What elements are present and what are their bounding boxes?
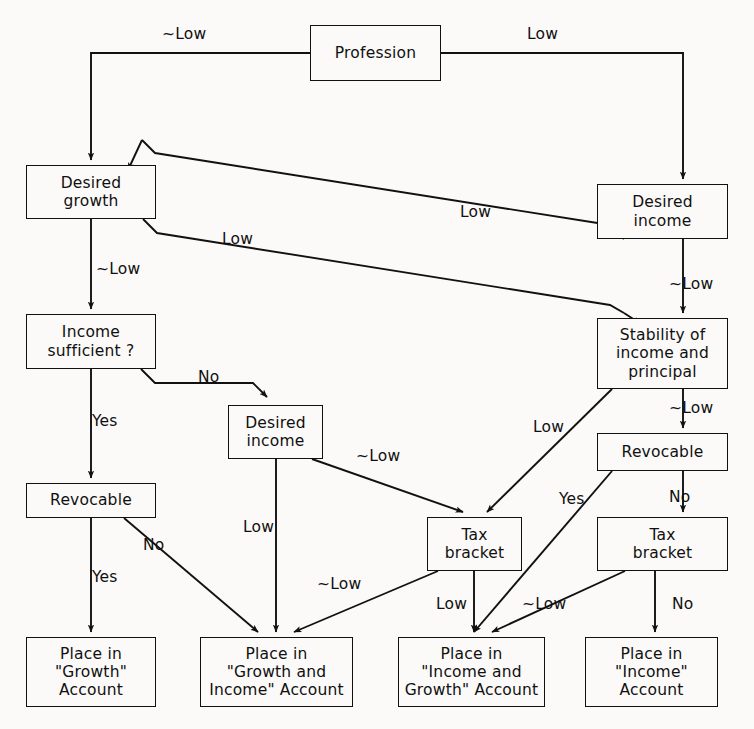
node-desired-income-right[interactable]: Desired income — [597, 184, 728, 239]
edge-label-stability-notlow: ~Low — [669, 401, 713, 417]
node-place-in-growth-account[interactable]: Place in "Growth" Account — [26, 637, 156, 707]
edge-label-tax-bracket-mid-low: Low — [436, 597, 467, 613]
edge-label-desired-income-mid-low: Low — [243, 520, 274, 536]
edge-label-income-sufficient-yes: Yes — [92, 414, 118, 430]
node-place-in-income-account[interactable]: Place in "Income" Account — [585, 637, 718, 707]
edge-label-desired-growth-notlow: ~Low — [96, 262, 140, 278]
edge-tax-bracket-mid-notlow — [294, 571, 438, 632]
node-desired-growth[interactable]: Desired growth — [26, 165, 156, 219]
node-desired-income-middle[interactable]: Desired income — [228, 405, 323, 459]
edge-label-desired-growth-low: Low — [222, 232, 253, 248]
edge-label-revocable-right-yes: Yes — [559, 492, 585, 508]
edge-label-tax-bracket-mid-notlow: ~Low — [317, 577, 361, 593]
edge-desired-income-mid-notlow — [312, 459, 463, 512]
node-place-in-income-and-growth-account[interactable]: Place in "Income and Growth" Account — [398, 637, 545, 707]
flowchart-canvas: Profession Desired growth Desired income… — [0, 0, 754, 729]
edge-label-revocable-left-yes: Yes — [92, 570, 118, 586]
edge-label-tax-bracket-right-no: No — [672, 597, 693, 613]
edge-label-desired-income-low: Low — [460, 205, 491, 221]
edge-label-profession-left: ~Low — [162, 27, 206, 43]
edge-desired-income-low-upper — [142, 140, 624, 239]
edge-profession-to-desired-income-right — [441, 53, 683, 179]
edge-label-income-sufficient-no: No — [198, 370, 219, 386]
edge-profession-to-desired-growth — [91, 53, 310, 160]
node-tax-bracket-middle[interactable]: Tax bracket — [427, 517, 522, 571]
edge-label-revocable-right-no: No — [669, 490, 690, 506]
node-profession[interactable]: Profession — [310, 25, 441, 81]
node-revocable-left[interactable]: Revocable — [26, 483, 156, 518]
edge-label-revocable-left-no: No — [143, 538, 164, 554]
edge-label-tax-bracket-right-notlow: ~Low — [522, 597, 566, 613]
edge-label-desired-income-right-notlow: ~Low — [669, 277, 713, 293]
edge-desired-growth-low — [143, 219, 624, 313]
node-tax-bracket-right[interactable]: Tax bracket — [597, 517, 728, 571]
node-revocable-right[interactable]: Revocable — [597, 433, 728, 471]
node-place-in-growth-and-income-account[interactable]: Place in "Growth and Income" Account — [200, 637, 353, 707]
edge-label-desired-income-mid-notlow: ~Low — [356, 449, 400, 465]
node-stability-of-income-and-principal[interactable]: Stability of income and principal — [597, 318, 728, 389]
edge-label-profession-right: Low — [527, 27, 558, 43]
edge-label-stability-low: Low — [533, 420, 564, 436]
node-income-sufficient[interactable]: Income sufficient ? — [26, 314, 156, 369]
